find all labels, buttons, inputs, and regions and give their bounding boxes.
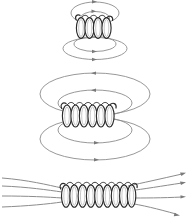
coil-turn [71,105,80,127]
field-line-right-4 [128,203,176,214]
field-arrow-top-outer [91,71,96,74]
coil-turn [103,185,112,207]
field-line-left-2 [2,186,62,192]
coil-turn [76,18,85,39]
field-arrow-top-inner [92,10,97,13]
coil-connector [124,182,131,184]
field-arrow-right-1 [180,173,186,176]
coil-turn [85,18,94,39]
field-arrow-right-2 [180,182,186,185]
solenoid-field-figure [0,0,191,223]
field-arrow-bottom-inner [92,50,97,53]
coil-turn [93,18,102,39]
coil-turn [70,185,79,207]
field-line-left-3 [2,196,62,198]
coil-connector [99,182,107,184]
coil-turn [95,185,104,207]
coil-connector [83,182,91,184]
coil-turn [79,105,88,127]
coil-turn [111,185,120,207]
field-line-group-right [128,173,186,217]
field-arrow-top-outer [92,0,97,4]
field-arrow-top-inner [91,89,96,92]
coil-connector [91,182,99,184]
coil-turn [86,185,95,207]
field-arrow-bottom-outer [92,58,97,61]
panel-medium-solenoid [40,71,150,161]
coil-turn [62,105,71,127]
coil-connector [93,102,101,105]
coil-connector [101,102,109,105]
field-arrow-right-4 [174,213,180,216]
field-arrow-bottom-inner [94,141,99,144]
coil-connector [67,102,75,105]
field-line-group-left [2,178,62,207]
coil-connector [116,182,124,184]
coil-connector [108,182,116,184]
coil-connector [66,182,74,184]
field-line-outer-below [63,38,127,60]
coil-turn [88,105,97,127]
coil-turn [62,185,71,207]
field-arrow-right-3 [181,195,187,198]
coil-medium-solenoid [61,102,116,127]
coil-short-solenoid [76,15,113,39]
coil-connector [76,102,84,105]
coil-long-solenoid [60,182,137,207]
coil-turn [127,185,135,207]
coil-turn [78,185,87,207]
figure-canvas [0,0,191,223]
coil-connector [84,102,92,105]
coil-turn [102,18,111,39]
coil-connector [74,182,82,184]
field-loop-group-below-1 [63,37,127,62]
panel-long-solenoid [2,173,186,217]
field-arrow-bottom-outer [94,158,99,161]
coil-turn [96,105,105,127]
field-line-left-4 [2,202,62,207]
panel-short-solenoid [63,0,127,61]
coil-turn [105,105,114,127]
